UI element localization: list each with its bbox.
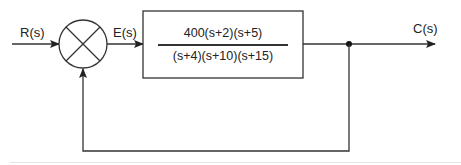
error-label: E(s) bbox=[113, 25, 137, 40]
transfer-function: 400(s+2)(s+5) (s+4)(s+10)(s+15) bbox=[143, 11, 303, 78]
output-label: C(s) bbox=[413, 21, 438, 36]
tf-numerator: 400(s+2)(s+5) bbox=[184, 25, 263, 41]
tf-denominator: (s+4)(s+10)(s+15) bbox=[173, 48, 273, 64]
fraction-bar bbox=[158, 44, 288, 45]
summing-junction bbox=[59, 20, 107, 68]
input-label: R(s) bbox=[20, 25, 45, 40]
bottom-rule bbox=[10, 162, 461, 163]
